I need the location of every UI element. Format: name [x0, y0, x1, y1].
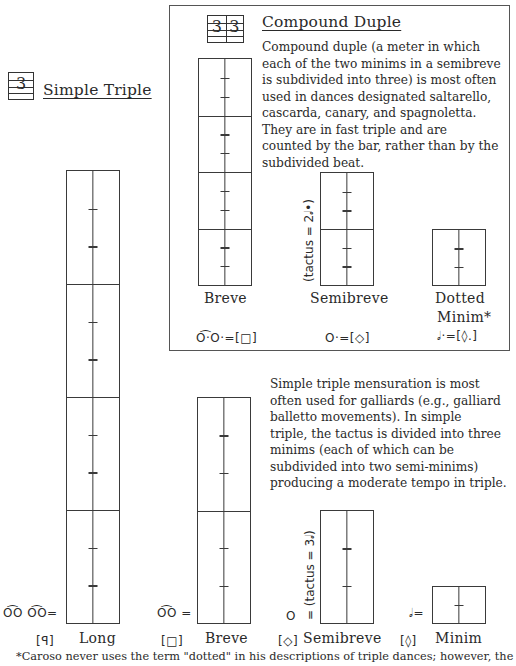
desc-line: They are in fast triple and are — [262, 122, 507, 139]
signature-numerator: 3 — [208, 16, 226, 42]
simple-long-bracket: [ꟼ] — [36, 634, 54, 648]
compound-semibreve-box — [320, 172, 374, 286]
compound-duple-title: Compound Duple — [262, 13, 401, 31]
beat-tick — [89, 322, 98, 323]
simple-semibreve-box — [320, 510, 374, 624]
center-line — [346, 511, 347, 623]
beat-tick — [221, 97, 230, 98]
beat-tick — [220, 548, 229, 549]
beat-tick — [89, 359, 98, 360]
beat-tick — [343, 266, 352, 267]
compound-duple-description: Compound duple (a meter in which each of… — [262, 39, 507, 171]
desc-line: triple, the tactus is divided into three — [270, 426, 515, 443]
beat-tick — [220, 586, 229, 587]
beat-tick — [343, 248, 352, 249]
beat-tick — [343, 192, 352, 193]
division-line — [199, 229, 251, 230]
beat-tick — [455, 267, 464, 268]
desc-line: used in dances designated saltarello, — [262, 89, 507, 106]
desc-line: often used for galliards (e.g., galliard — [270, 393, 515, 410]
compound-tactus-label: (tactus = 2𝅗𝅥•) — [302, 199, 316, 282]
beat-tick — [343, 548, 352, 549]
beat-tick — [221, 153, 230, 154]
simple-long-label: Long — [79, 630, 116, 646]
beat-tick — [221, 266, 230, 267]
signature-denominator: 3 — [226, 16, 244, 42]
beat-tick — [221, 191, 230, 192]
simple-semibreve-label: Semibreve — [303, 630, 381, 646]
beat-tick — [221, 134, 230, 135]
simple-minim-equation: 𝅗𝅥= — [409, 606, 424, 620]
compound-dotted-label: Dotted — [435, 290, 485, 306]
simple-semibreve-bracket: [◇] — [278, 634, 298, 648]
desc-line: balletto movements). In simple — [270, 409, 515, 426]
division-line — [198, 511, 250, 512]
beat-tick — [221, 78, 230, 79]
compound-semibreve-equation: O·=[◇] — [325, 331, 370, 345]
beat-tick — [220, 435, 229, 436]
simple-minim-bracket: [◊] — [400, 634, 417, 648]
beat-tick — [220, 473, 229, 474]
desc-line: cascarda, canary, and spagnoletta. — [262, 105, 507, 122]
simple-minim-box — [432, 586, 486, 624]
division-line — [67, 397, 119, 398]
desc-line: Compound duple (a meter in which — [262, 39, 507, 56]
desc-line: Simple triple mensuration is most — [270, 376, 515, 393]
simple-breve-bracket: [□] — [161, 634, 183, 648]
compound-breve-label: Breve — [204, 290, 247, 306]
compound-time-signature: 3 3 — [207, 15, 244, 43]
simple-long-box — [66, 170, 120, 624]
compound-breve-equation: O͡·O·=[□] — [196, 331, 257, 345]
desc-line: minims (each of which can be — [270, 442, 515, 459]
compound-minim-label: Minim* — [437, 309, 491, 325]
beat-tick — [89, 548, 98, 549]
footnote: *Caroso never uses the term "dotted" in … — [16, 650, 513, 663]
beat-tick — [89, 209, 98, 210]
division-line — [321, 229, 373, 230]
beat-tick — [343, 586, 352, 587]
simple-breve-equation: O͡O = — [157, 606, 192, 620]
desc-line: is subdivided into three) is most often — [262, 72, 507, 89]
beat-tick — [343, 210, 352, 211]
simple-long-equation: O͡O O͡O= — [3, 606, 58, 620]
simple-semibreve-equation: O — [286, 609, 296, 623]
beat-tick — [455, 248, 464, 249]
center-line — [458, 230, 459, 285]
beat-tick — [89, 246, 98, 247]
beat-tick — [221, 210, 230, 211]
compound-minim-equation: 𝅗𝅥·=[◊.] — [437, 329, 477, 343]
desc-line: producing a moderate tempo in triple. — [270, 475, 515, 492]
simple-triple-description: Simple triple mensuration is most often … — [270, 376, 515, 492]
desc-line: each of the two minims in a semibreve — [262, 56, 507, 73]
compound-breve-box — [198, 58, 252, 286]
simple-breve-label: Breve — [205, 630, 248, 646]
division-line — [199, 172, 251, 173]
division-line — [199, 116, 251, 117]
compound-semibreve-label: Semibreve — [310, 290, 388, 306]
signature-number: 3 — [9, 73, 33, 99]
simple-minim-label: Minim — [435, 630, 482, 646]
simple-tactus-label: = (tactus = 3𝅗𝅥) — [303, 530, 317, 620]
division-line — [67, 284, 119, 285]
desc-line: subdivided beat. — [262, 155, 507, 172]
desc-line: subdivided into two semi-minims) — [270, 459, 515, 476]
simple-breve-box — [197, 397, 251, 624]
simple-triple-title: Simple Triple — [43, 81, 152, 99]
beat-tick — [89, 435, 98, 436]
beat-tick — [89, 585, 98, 586]
compound-dotted-minim-box — [432, 229, 486, 286]
beat-tick — [221, 247, 230, 248]
division-line — [67, 510, 119, 511]
beat-tick — [89, 472, 98, 473]
simple-time-signature: 3 — [8, 72, 34, 100]
desc-line: counted by the bar, rather than by the — [262, 138, 507, 155]
beat-tick — [455, 605, 464, 606]
